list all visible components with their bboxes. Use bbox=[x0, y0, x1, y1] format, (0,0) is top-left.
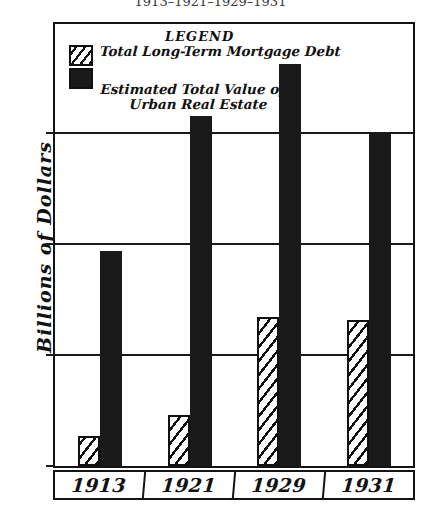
y-tick-mark-0 bbox=[46, 465, 54, 467]
bar-group-1929 bbox=[234, 24, 324, 466]
y-tick-mark-40 bbox=[46, 243, 54, 245]
bar-1929-urban-real-estate[interactable] bbox=[279, 64, 301, 466]
bar-1931-urban-real-estate[interactable] bbox=[369, 133, 391, 467]
bar-group-1931 bbox=[324, 24, 414, 466]
bar-1931-mortgage-debt[interactable] bbox=[347, 320, 369, 466]
x-axis-labels: 1913 1921 1929 1931 bbox=[53, 470, 415, 500]
x-axis-cell-1921[interactable]: 1921 bbox=[144, 472, 236, 498]
y-tick-mark-20 bbox=[46, 354, 54, 356]
x-axis-cell-1929[interactable]: 1929 bbox=[234, 472, 326, 498]
x-axis-cell-1913[interactable]: 1913 bbox=[54, 472, 146, 498]
chart-title: 1913–1921–1929–1931 bbox=[0, 0, 421, 9]
bar-1913-urban-real-estate[interactable] bbox=[100, 251, 122, 466]
bar-1921-mortgage-debt[interactable] bbox=[168, 415, 190, 466]
bar-1913-mortgage-debt[interactable] bbox=[78, 436, 100, 466]
bar-1929-mortgage-debt[interactable] bbox=[257, 317, 279, 466]
x-axis-cell-1931[interactable]: 1931 bbox=[324, 472, 414, 498]
bar-group-1921 bbox=[145, 24, 235, 466]
plot-frame: Billions of Dollars 80 60 40 20 0 LEGEND… bbox=[53, 22, 415, 468]
y-tick-mark-60 bbox=[46, 132, 54, 134]
bar-group-1913 bbox=[55, 24, 145, 466]
bar-1921-urban-real-estate[interactable] bbox=[190, 116, 212, 466]
